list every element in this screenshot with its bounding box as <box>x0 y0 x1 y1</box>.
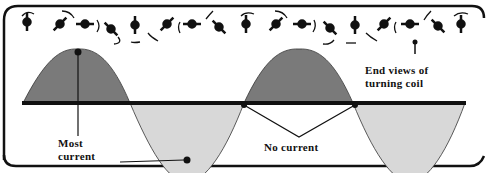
positive-half-wave-2 <box>244 49 353 103</box>
end-views-label-1: End views of <box>365 64 429 76</box>
trough-marker <box>184 157 191 164</box>
coil-icon <box>267 15 285 33</box>
positive-half-wave-1 <box>23 49 130 103</box>
coil-icon <box>243 15 250 33</box>
coil-icon <box>352 16 359 34</box>
coil-icon <box>458 15 465 33</box>
coil-icon <box>76 21 94 28</box>
coil-icon <box>24 13 31 31</box>
coil-icon <box>183 21 201 28</box>
most-current-label-1: Most <box>58 137 83 149</box>
coil-icon <box>102 20 120 38</box>
coil-icon <box>375 15 393 33</box>
coil-icon <box>429 17 447 35</box>
most-current-label-2: current <box>58 150 95 162</box>
coil-icon <box>51 15 69 33</box>
no-current-pointer <box>244 105 355 137</box>
coil-icon <box>210 18 228 36</box>
end-views-label-2: turning coil <box>365 77 423 89</box>
coil-icon <box>401 21 419 28</box>
no-current-label: No current <box>264 141 318 153</box>
coil-icon <box>158 15 176 33</box>
coil-icon <box>293 21 311 28</box>
negative-half-wave-2 <box>353 103 465 173</box>
coil-sequence <box>24 13 465 38</box>
coil-icon <box>132 16 139 34</box>
coil-icon <box>321 19 339 37</box>
